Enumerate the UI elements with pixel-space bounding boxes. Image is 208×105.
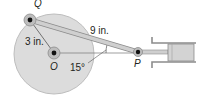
pin-O <box>52 51 57 56</box>
label-point-P: P <box>134 59 141 69</box>
label-rod-length: 9 in. <box>90 26 109 36</box>
pin-P <box>136 50 140 54</box>
label-point-O: O <box>50 62 58 72</box>
pin-Q <box>28 18 33 23</box>
crank-diagram <box>0 0 208 105</box>
cylinder-top-wall <box>152 37 196 43</box>
label-angle: 15° <box>70 63 85 73</box>
cylinder-bottom-wall <box>152 62 196 68</box>
label-point-Q: Q <box>34 0 42 9</box>
angle-arc <box>106 45 107 54</box>
label-crank-length: 3 in. <box>25 37 44 47</box>
